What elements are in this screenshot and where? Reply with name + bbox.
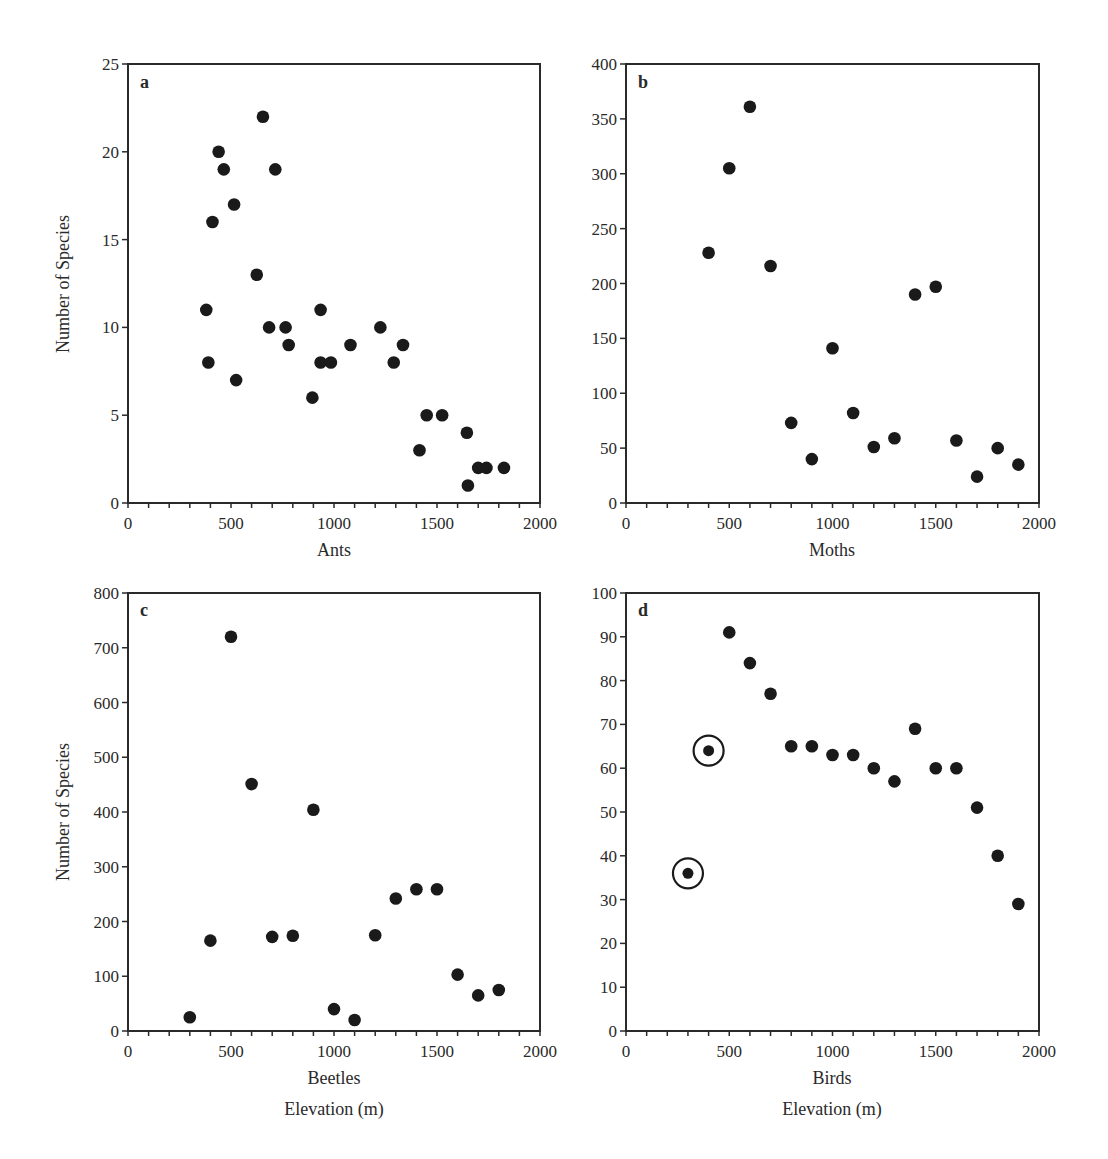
data-point xyxy=(307,804,320,817)
data-point xyxy=(826,342,839,355)
y-tick-label: 100 xyxy=(592,584,618,603)
data-point xyxy=(764,687,777,700)
x-tick-label: 1000 xyxy=(317,514,351,533)
y-tick-label: 100 xyxy=(94,967,120,986)
data-point xyxy=(826,749,839,762)
data-point xyxy=(480,462,493,475)
panel-a-xlabel: Ants xyxy=(317,540,351,560)
x-tick-label: 1500 xyxy=(919,514,953,533)
y-tick-label: 20 xyxy=(102,143,119,162)
panel-d-label: d xyxy=(638,600,648,620)
x-tick-label: 0 xyxy=(622,514,631,533)
data-point xyxy=(682,868,693,879)
data-point xyxy=(387,356,400,369)
y-tick-label: 60 xyxy=(600,759,617,778)
data-point xyxy=(287,929,300,942)
data-point xyxy=(472,989,485,1002)
y-tick-label: 10 xyxy=(600,978,617,997)
data-point xyxy=(888,775,901,788)
x-tick-label: 2000 xyxy=(1022,1042,1056,1061)
data-point xyxy=(950,434,963,447)
x-tick-label: 0 xyxy=(124,1042,133,1061)
panel-c-ylabel: Number of Species xyxy=(53,743,73,881)
x-tick-label: 2000 xyxy=(523,1042,557,1061)
data-point xyxy=(462,479,475,492)
data-point xyxy=(847,749,860,762)
data-point xyxy=(744,657,757,670)
data-point xyxy=(314,304,327,317)
y-tick-label: 90 xyxy=(600,628,617,647)
y-tick-label: 15 xyxy=(102,231,119,250)
data-point xyxy=(374,321,387,334)
x-tick-label: 500 xyxy=(218,1042,244,1061)
panel-c-points xyxy=(184,631,506,1027)
y-tick-label: 70 xyxy=(600,715,617,734)
y-tick-label: 20 xyxy=(600,934,617,953)
data-point xyxy=(328,1003,341,1016)
data-point xyxy=(929,762,942,775)
data-point xyxy=(764,260,777,273)
x-tick-label: 2000 xyxy=(1022,514,1056,533)
data-point xyxy=(348,1014,361,1027)
y-tick-label: 0 xyxy=(609,1022,618,1041)
panel-d-elevation-label: Elevation (m) xyxy=(782,1099,881,1120)
data-point xyxy=(971,801,984,814)
data-point xyxy=(723,626,736,639)
y-tick-label: 700 xyxy=(94,639,120,658)
plot-frame xyxy=(626,64,1039,503)
data-point xyxy=(868,441,881,454)
data-point xyxy=(269,163,282,176)
data-point xyxy=(1012,898,1025,911)
data-point xyxy=(847,407,860,420)
data-point xyxy=(200,304,213,317)
panel-d-xlabel: Birds xyxy=(812,1068,851,1088)
data-point xyxy=(723,162,736,175)
y-tick-label: 250 xyxy=(592,220,618,239)
panel-d-points xyxy=(673,626,1025,910)
x-tick-label: 1500 xyxy=(919,1042,953,1061)
y-tick-label: 300 xyxy=(94,858,120,877)
x-tick-label: 0 xyxy=(622,1042,631,1061)
data-point xyxy=(806,453,819,466)
y-tick-label: 300 xyxy=(592,165,618,184)
panel-a-axes: 05001000150020000510152025 xyxy=(102,55,557,533)
data-point xyxy=(909,722,922,735)
data-point xyxy=(806,740,819,753)
y-tick-label: 200 xyxy=(94,913,120,932)
data-point xyxy=(950,762,963,775)
data-point xyxy=(263,321,276,334)
x-tick-label: 0 xyxy=(124,514,133,533)
data-point xyxy=(702,246,715,259)
plot-frame xyxy=(128,593,540,1031)
data-point xyxy=(217,163,230,176)
y-tick-label: 50 xyxy=(600,803,617,822)
panel-c-label: c xyxy=(140,600,148,620)
x-tick-label: 1000 xyxy=(317,1042,351,1061)
data-point xyxy=(498,462,511,475)
y-tick-label: 400 xyxy=(592,55,618,74)
y-tick-label: 500 xyxy=(94,748,120,767)
panel-c-axes: 0500100015002000010020030040050060070080… xyxy=(94,584,558,1061)
data-point xyxy=(420,409,433,422)
y-tick-label: 800 xyxy=(94,584,120,603)
x-tick-label: 500 xyxy=(717,1042,743,1061)
data-point xyxy=(868,762,881,775)
data-point xyxy=(929,280,942,293)
data-point xyxy=(436,409,449,422)
y-tick-label: 150 xyxy=(592,329,618,348)
data-point xyxy=(410,883,423,896)
y-tick-label: 400 xyxy=(94,803,120,822)
data-point xyxy=(431,883,444,896)
panel-b-axes: 0500100015002000050100150200250300350400 xyxy=(592,55,1057,533)
panel-d: 05001000150020000102030405060708090100 d… xyxy=(592,584,1057,1120)
data-point xyxy=(971,470,984,483)
data-point xyxy=(461,426,474,439)
x-tick-label: 500 xyxy=(218,514,244,533)
y-tick-label: 40 xyxy=(600,847,617,866)
data-point xyxy=(266,931,279,944)
x-tick-label: 1000 xyxy=(816,514,850,533)
panel-c: 0500100015002000010020030040050060070080… xyxy=(53,584,557,1120)
y-tick-label: 0 xyxy=(111,1022,120,1041)
data-point xyxy=(325,356,338,369)
data-point xyxy=(785,740,798,753)
